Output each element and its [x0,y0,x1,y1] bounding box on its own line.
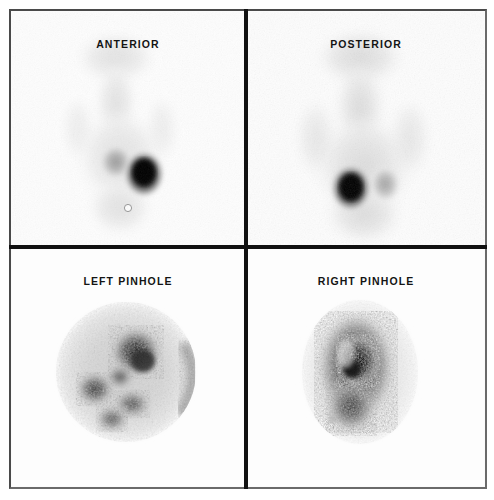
panel-label-left-pinhole: LEFT PINHOLE [12,275,244,287]
panel-right-pinhole[interactable]: RIGHT PINHOLE [248,249,484,486]
horizontal-divider [9,245,487,249]
panel-label-posterior: POSTERIOR [248,38,484,50]
panel-label-right-pinhole: RIGHT PINHOLE [248,275,484,287]
panel-label-anterior: ANTERIOR [12,38,244,50]
panel-left-pinhole[interactable]: LEFT PINHOLE [12,249,244,486]
panel-anterior[interactable]: ANTERIOR [12,12,244,245]
scintigraphy-figure: ANTERIOR [0,0,494,500]
panel-posterior[interactable]: POSTERIOR [248,12,484,245]
vertical-divider [244,9,248,489]
